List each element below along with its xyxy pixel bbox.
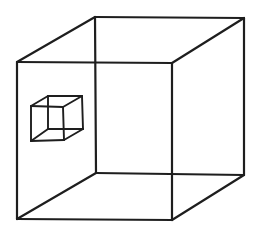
small-cube-edge-front-top-left-to-front-top-right [31,106,63,107]
background [0,0,260,234]
large-cube-edge-back-top-left-to-back-top-right [95,17,244,18]
large-cube-edge-front-bottom-right-to-front-bottom-left [17,219,172,220]
small-cube-edge-front-top-right-to-front-bottom-right [63,107,64,140]
small-cube-edge-back-top-right-to-back-bottom-right [82,96,83,129]
large-cube-edge-back-bottom-left-to-back-top-left [95,17,96,173]
cube-diagram [0,0,260,234]
small-cube-edge-front-bottom-right-to-front-bottom-left [31,140,64,141]
